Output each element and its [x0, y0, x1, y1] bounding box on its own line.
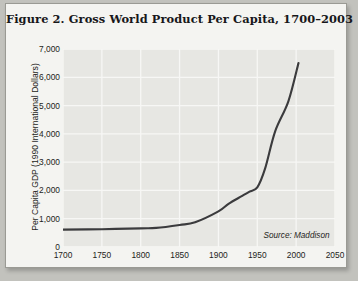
y-tick-label: 5,000 [16, 101, 60, 111]
x-tick-label: 1900 [198, 250, 238, 260]
y-tick-label: 4,000 [16, 129, 60, 139]
chart-svg [63, 49, 335, 247]
y-tick-label: 7,000 [16, 44, 60, 54]
figure-title: Figure 2. Gross World Product Per Capita… [6, 12, 348, 26]
data-series-line [63, 63, 298, 229]
figure-frame: Figure 2. Gross World Product Per Capita… [5, 3, 347, 268]
page-background: Figure 2. Gross World Product Per Capita… [0, 0, 358, 281]
y-axis-tick-labels: 01,0002,0003,0004,0005,0006,0007,000 [14, 49, 60, 247]
y-tick-label: 3,000 [16, 157, 60, 167]
x-tick-label: 1800 [121, 250, 161, 260]
x-tick-label: 1700 [43, 250, 83, 260]
x-tick-label: 2050 [315, 250, 355, 260]
y-tick-label: 1,000 [16, 214, 60, 224]
x-axis-tick-labels: 17001750180018501900195020002050 [63, 250, 335, 266]
y-tick-label: 6,000 [16, 72, 60, 82]
x-tick-label: 2000 [276, 250, 316, 260]
x-tick-label: 1950 [237, 250, 277, 260]
plot-background [63, 49, 335, 247]
source-annotation: Source: Maddison [264, 231, 330, 240]
y-tick-label: 2,000 [16, 185, 60, 195]
plot-area [63, 49, 335, 247]
x-tick-label: 1750 [82, 250, 122, 260]
x-tick-label: 1850 [160, 250, 200, 260]
